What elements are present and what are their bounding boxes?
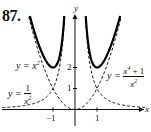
y-tick-2: 2 <box>67 63 72 72</box>
label-y-equals-one-over-x-squared: y = 1 x2 <box>8 84 31 106</box>
x-tick-neg1: −1 <box>46 114 56 123</box>
label-y-equals-x-squared: y = x2 <box>16 58 40 71</box>
eq-inv-prefix: y = <box>8 88 22 99</box>
eq-sum-fraction: x4 + 1 x2 <box>123 64 144 89</box>
eq-sum-den: x2 <box>130 77 137 89</box>
eq-sum-prefix: y = <box>107 70 121 81</box>
eq-inv-fraction: 1 x2 <box>24 84 31 106</box>
curve-sum-right <box>86 16 120 67</box>
eq-inv-den: x2 <box>24 94 31 106</box>
y-axis-arrow-icon <box>73 14 78 19</box>
eq-sum-num: x4 + 1 <box>123 64 144 76</box>
label-y-equals-x4-plus-1-over-x2: y = x4 + 1 x2 <box>107 64 144 89</box>
y-axis-label: y <box>74 3 78 13</box>
eq-x2-text: y = x <box>16 60 37 71</box>
eq-x2-exp: 2 <box>37 60 40 66</box>
x-tick-1: 1 <box>95 114 100 123</box>
eq-inv-num: 1 <box>25 84 30 93</box>
x-axis-label: x <box>145 104 149 114</box>
y-tick-1: 1 <box>67 84 72 93</box>
